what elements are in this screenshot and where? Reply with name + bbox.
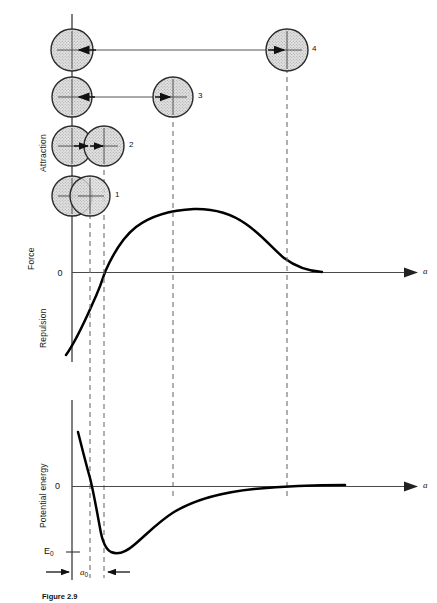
force-zero-label: 0: [57, 268, 62, 278]
atom-pair-row-3: [52, 77, 193, 117]
potential-energy-curve: [78, 432, 345, 553]
equilibrium-subscript: 0: [85, 571, 89, 578]
atom-pair-label-3: 3: [198, 91, 202, 100]
atom-pair-label-1: 1: [115, 190, 119, 199]
pe-x-axis-label: a: [423, 480, 428, 490]
force-plot: 0: [57, 14, 418, 362]
force-x-axis-arrow: [404, 268, 418, 278]
guide-lines: [90, 50, 287, 578]
interatomic-force-energy-figure: 0: [0, 0, 437, 603]
repulsion-label: Repulsion: [38, 308, 48, 348]
pe-x-axis-arrow: [404, 482, 418, 492]
potential-energy-axis-label: Potential energy: [38, 463, 48, 528]
force-axis-label: Force: [26, 247, 36, 270]
figure-caption-number: Figure 2.9: [42, 592, 77, 601]
pe-zero-label: 0: [55, 481, 60, 491]
well-depth-label: E0: [44, 546, 54, 557]
well-depth-subscript: 0: [50, 550, 54, 557]
figure-caption: Figure 2.9: [42, 592, 432, 603]
force-x-axis-label: a: [423, 266, 428, 276]
atom-pair-row-2: [52, 126, 124, 166]
atom-pair-row-1: [52, 176, 110, 216]
atom-pair-label-4: 4: [312, 44, 316, 53]
attraction-label: Attraction: [38, 134, 48, 172]
atom-pair-label-2: 2: [129, 140, 133, 149]
equilibrium-spacing-label: a0: [80, 567, 88, 578]
figure-svg: 0: [0, 0, 437, 603]
atom-pair-row-4: [51, 29, 308, 71]
potential-energy-plot: [46, 400, 418, 580]
